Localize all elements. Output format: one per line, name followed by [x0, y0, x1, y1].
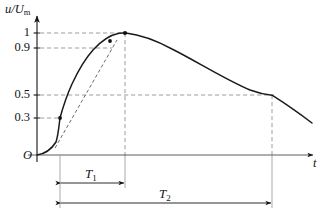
point-0-3-marker	[58, 116, 62, 120]
x-axis-label: t	[313, 157, 316, 170]
y-tick-label-0-3: 0.3	[0, 111, 30, 124]
span-label-T2: T2	[159, 187, 171, 200]
span-label-T2-sub: 2	[166, 193, 171, 203]
span-label-T1: T1	[85, 167, 97, 180]
figure-caption	[0, 212, 327, 219]
point-peak-marker	[123, 31, 127, 35]
figure-container: u/Um t O 1 0.9 0.5 0.3 T1 T2	[0, 0, 327, 219]
y-tick-label-1-0: 1	[0, 26, 30, 39]
y-axis-label-sub: m	[24, 7, 31, 17]
y-axis-label-main: u/U	[5, 2, 24, 16]
guide-lines-group	[33, 33, 274, 157]
response-curve	[37, 33, 312, 155]
y-tick-label-0-5: 0.5	[0, 88, 30, 101]
tangent-line	[55, 40, 117, 148]
y-tick-label-0-9: 0.9	[0, 41, 30, 54]
curve-markers	[58, 31, 127, 120]
origin-label: O	[23, 149, 32, 162]
point-0-9-marker	[108, 39, 112, 43]
span-label-T1-sub: 1	[92, 173, 97, 183]
y-axis-label: u/Um	[5, 3, 30, 16]
